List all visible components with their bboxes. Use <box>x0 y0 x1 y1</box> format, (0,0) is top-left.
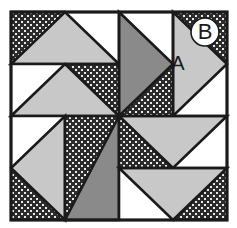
unit-bottom-right-row2 <box>119 116 227 168</box>
patch-label-b-badge: B <box>191 18 219 46</box>
unit-bottom-right-row3 <box>119 168 227 220</box>
unit-bottom-left-tall <box>11 116 65 220</box>
quilt-block-svg: A B <box>0 0 237 228</box>
unit-top-left-row1 <box>11 64 119 116</box>
unit-top-left-row0 <box>11 12 119 64</box>
patch-label-b: B <box>198 19 213 44</box>
unit-bottom-center-tall <box>65 116 119 220</box>
quilt-block-figure: A B <box>0 0 237 228</box>
unit-top-center-tall <box>119 12 173 116</box>
patch-label-a: A <box>171 52 185 74</box>
